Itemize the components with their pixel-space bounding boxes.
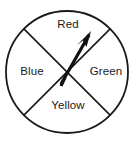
sector-label-yellow: Yellow (0, 99, 136, 111)
sector-label-blue: Blue (4, 65, 60, 77)
spinner-figure: Red Green Yellow Blue (0, 0, 136, 147)
sector-label-red: Red (0, 18, 136, 30)
sector-label-green: Green (78, 65, 134, 77)
